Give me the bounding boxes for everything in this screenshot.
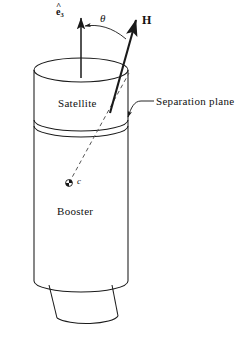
theta-label: θ <box>100 13 105 24</box>
theta-arc-path <box>85 25 126 39</box>
cylinder-bottom-arc <box>34 281 128 292</box>
theta-angle-arc <box>85 25 126 39</box>
e3-stack: ^ e <box>56 7 60 17</box>
satellite-label: Satellite <box>58 98 97 109</box>
center-of-mass-label: c <box>77 177 81 186</box>
unit-vector-e3-label: ^ e 3 <box>56 7 64 19</box>
separation-arc-upper <box>34 120 128 131</box>
figure-canvas: ^ e 3 θ H Satellite Separation plane c B… <box>0 0 247 338</box>
booster-label: Booster <box>57 206 93 217</box>
separation-plane-leader <box>128 101 154 117</box>
dashed-axis-line <box>69 73 129 183</box>
center-of-mass-point <box>66 180 73 187</box>
cylinder-bottom-back-arc <box>34 270 128 281</box>
diagram-svg <box>0 0 247 338</box>
angular-momentum-label: H <box>142 14 151 26</box>
nozzle-right-wall <box>112 285 118 316</box>
nozzle-bottom-arc <box>57 316 118 323</box>
dashed-line-c-to-rim <box>69 73 129 183</box>
h-arrow-line <box>110 20 136 113</box>
separation-leader-path <box>128 101 154 117</box>
e3-subscript: 3 <box>60 11 63 18</box>
separation-plane-label: Separation plane <box>156 96 234 107</box>
separation-plane-band <box>34 120 128 137</box>
e3-hat-accent: ^ <box>56 2 60 11</box>
h-vector-arrow <box>110 20 136 113</box>
